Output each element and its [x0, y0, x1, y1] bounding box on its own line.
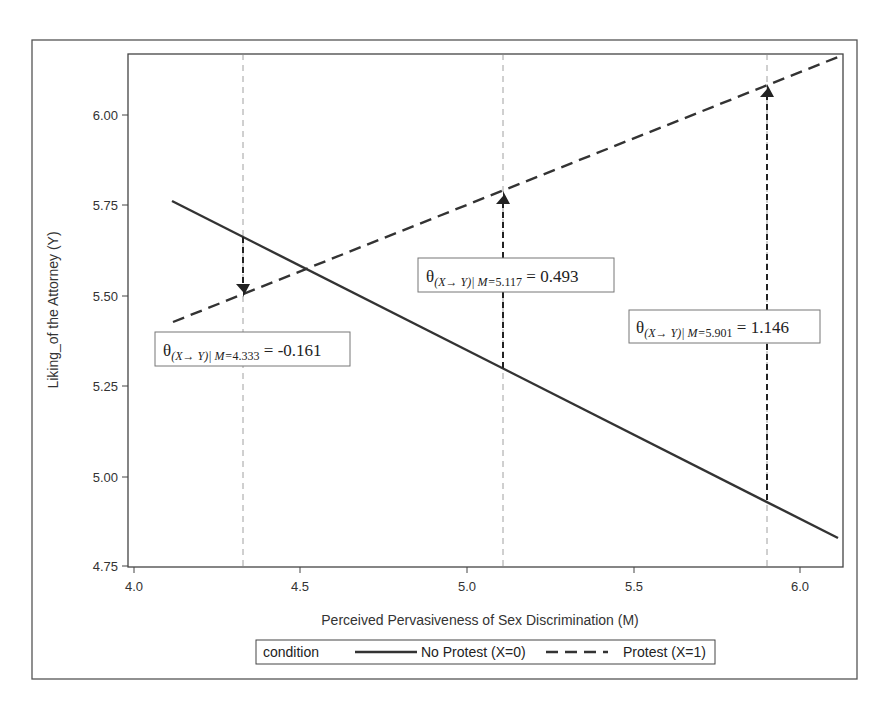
x-tick-label: 6.0	[791, 579, 809, 594]
y-tick-label: 5.25	[93, 379, 118, 394]
y-axis-title: Liking_of the Attorney (Y)	[45, 231, 61, 388]
annotation-5117: θ(X→ Y)| M=5.117 = 0.493	[418, 258, 614, 292]
y-tick-label: 5.00	[93, 470, 118, 485]
theta-symbol: θ	[636, 318, 644, 337]
annotation-4333: θ(X→ Y)| M=4.333 = -0.161	[155, 332, 350, 366]
theta-symbol: θ	[163, 341, 171, 360]
annotation-5901: θ(X→ Y)| M=5.901 = 1.146	[629, 310, 820, 343]
y-tick-label: 6.00	[93, 108, 118, 123]
legend-label-protest: Protest (X=1)	[623, 644, 706, 660]
y-axis	[122, 115, 128, 566]
conditional-effect-chart: 4.75 5.00 5.25 5.50 5.75 6.00 4.0 4.5 5.…	[0, 0, 890, 704]
x-tick-label: 4.5	[291, 579, 309, 594]
x-tick-label: 5.0	[458, 579, 476, 594]
theta-symbol: θ	[426, 267, 434, 286]
legend-label-no-protest: No Protest (X=0)	[421, 644, 526, 660]
y-tick-label: 5.50	[93, 289, 118, 304]
x-tick-label: 5.5	[625, 579, 643, 594]
arrowhead-up-icon	[760, 84, 774, 97]
x-axis	[134, 567, 800, 573]
arrowhead-down-icon	[236, 284, 250, 297]
y-tick-label: 5.75	[93, 198, 118, 213]
effect-arrows	[243, 91, 767, 500]
series-no-protest	[172, 201, 838, 538]
x-axis-title: Perceived Pervasiveness of Sex Discrimin…	[321, 612, 638, 628]
y-tick-label: 4.75	[93, 559, 118, 574]
legend: condition No Protest (X=0) Protest (X=1)	[256, 640, 715, 664]
x-tick-label: 4.0	[125, 579, 143, 594]
legend-title: condition	[263, 644, 319, 660]
